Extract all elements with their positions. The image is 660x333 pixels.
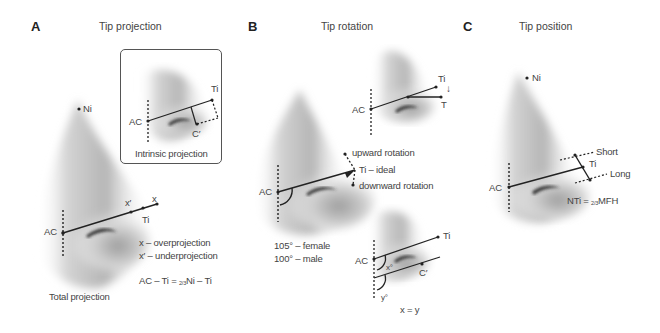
inset-label-ti: Ti	[211, 83, 218, 94]
label-ac: AC	[259, 186, 272, 197]
caption-total-projection: Total projection	[49, 291, 110, 302]
panel-a-intrinsic-inset	[120, 49, 222, 164]
panel-a-letter: A	[31, 19, 40, 34]
diagram-artwork	[0, 0, 660, 333]
label-ti: Ti	[589, 158, 596, 169]
panel-a-title: Tip projection	[99, 20, 162, 32]
label-upward-rotation: upward rotation	[352, 147, 414, 158]
legend-underprojection: x′ – underprojection	[139, 250, 218, 261]
legend-overprojection: x – overprojection	[139, 237, 210, 248]
formula-total-projection: AC – Ti = 2/3Ni – Ti	[139, 275, 212, 286]
inset-label-ac: AC	[129, 116, 142, 127]
panel-b-top-inset-illustration	[369, 51, 442, 137]
label-ni: Ni	[532, 72, 541, 83]
inset-caption-intrinsic-projection: Intrinsic projection	[135, 148, 208, 159]
label-male-angle: 100° – male	[274, 253, 323, 264]
equation-x-equals-y: x = y	[400, 304, 419, 315]
top-inset-label-ti: Ti	[438, 73, 445, 84]
panel-b-title: Tip rotation	[321, 20, 373, 32]
bottom-inset-label-ti: Ti	[443, 230, 450, 241]
bottom-inset-label-x-angle: x°	[386, 263, 393, 272]
panel-b-bottom-inset-illustration	[370, 211, 440, 300]
label-female-angle: 105° – female	[274, 240, 330, 251]
formula-tip-position: NTi = 2/3MFH	[567, 195, 618, 206]
label-ac: AC	[44, 226, 57, 237]
panel-c-letter: C	[463, 19, 472, 34]
bottom-inset-label-ac: AC	[355, 255, 368, 266]
label-x: x	[152, 193, 157, 204]
panel-b-letter: B	[248, 19, 257, 34]
label-x-prime: x′	[125, 197, 131, 208]
bottom-inset-label-c-prime: C′	[419, 267, 427, 278]
panel-c-title: Tip position	[519, 20, 572, 32]
top-inset-label-ac: AC	[352, 104, 365, 115]
label-downward-rotation: downward rotation	[359, 180, 433, 191]
label-long: Long	[610, 168, 630, 179]
label-ti: Ti	[142, 214, 149, 225]
down-arrow-icon: ↓	[446, 83, 451, 94]
bottom-inset-label-y-angle: y°	[381, 293, 388, 302]
label-ni: Ni	[83, 103, 92, 114]
top-inset-label-t: T	[441, 99, 447, 110]
label-ti-ideal: Ti – ideal	[359, 164, 395, 175]
label-short: Short	[596, 146, 618, 157]
inset-label-c-prime: C′	[192, 128, 200, 139]
label-ac: AC	[489, 182, 502, 193]
